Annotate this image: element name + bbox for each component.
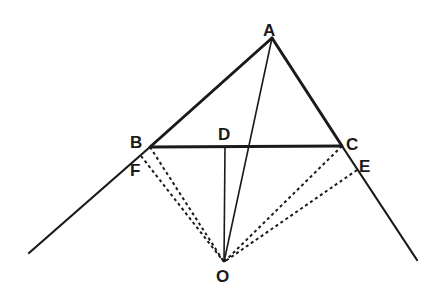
- dashed-line-fo: [141, 156, 224, 262]
- label-b: B: [130, 133, 142, 152]
- label-a: A: [263, 21, 275, 40]
- geometry-diagram: A B D C F E O: [0, 0, 439, 296]
- label-o: O: [216, 267, 229, 286]
- label-f: F: [130, 161, 140, 180]
- line-bc: [150, 146, 342, 147]
- line-ao: [224, 38, 272, 262]
- label-d: D: [218, 125, 230, 144]
- dashed-line-co: [224, 146, 342, 262]
- label-c: C: [346, 135, 358, 154]
- line-a-left: [150, 38, 272, 147]
- dashed-line-eo: [224, 170, 357, 262]
- dashed-line-bo: [150, 147, 224, 262]
- line-right-extension: [342, 146, 417, 260]
- label-e: E: [359, 157, 370, 176]
- line-do: [224, 147, 225, 262]
- line-a-right: [272, 38, 342, 146]
